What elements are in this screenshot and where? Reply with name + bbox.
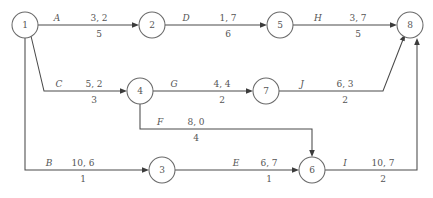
node-5[interactable]: 5 (267, 12, 293, 38)
edge-C-arrowhead (120, 88, 127, 94)
edge-E-lower: 1 (266, 174, 272, 184)
edge-B-lower: 1 (80, 174, 86, 184)
edge-B-line (25, 38, 146, 170)
edge-B-arrowhead (142, 167, 149, 173)
edge-E-arrowhead (292, 167, 299, 173)
network-diagram-canvas: A 3, 2 5 D 1, 7 6 H 3, 7 5 C 5, 2 3 G 4,… (0, 0, 433, 198)
node-5-label: 5 (277, 20, 283, 30)
edge-F-name: F (156, 117, 164, 127)
edge-C-name: C (56, 79, 63, 89)
edge-label-C: C 5, 2 3 (56, 79, 103, 105)
edge-G (153, 88, 253, 94)
edge-label-E: E 6, 7 1 (232, 158, 278, 184)
edge-E-upper: 6, 7 (260, 158, 277, 168)
node-7[interactable]: 7 (253, 78, 279, 104)
edge-D-lower: 6 (225, 29, 231, 39)
edge-I-name: I (342, 158, 347, 168)
node-8[interactable]: 8 (397, 12, 423, 38)
edge-J-upper: 6, 3 (336, 79, 353, 89)
edge-A (38, 22, 139, 28)
edge-E-name: E (232, 158, 240, 168)
node-1[interactable]: 1 (12, 12, 38, 38)
node-7-label: 7 (263, 86, 269, 96)
edge-C (31, 36, 127, 94)
edge-F-lower: 4 (193, 133, 199, 143)
edge-H-upper: 3, 7 (349, 13, 366, 23)
edge-A-arrowhead (132, 22, 139, 28)
edge-C-upper: 5, 2 (85, 79, 102, 89)
edge-H-arrowhead (390, 22, 397, 28)
edge-I-arrowhead (414, 38, 420, 45)
edge-J-name: J (298, 79, 305, 89)
edge-I-lower: 2 (380, 174, 386, 184)
edge-H-lower: 5 (355, 29, 361, 39)
edge-label-H: H 3, 7 5 (313, 13, 367, 39)
edge-label-G: G 4, 4 2 (170, 79, 230, 105)
node-8-label: 8 (407, 20, 413, 30)
edge-I-line (325, 41, 417, 170)
edge-I-upper: 10, 7 (372, 158, 395, 168)
edge-B-upper: 10, 6 (72, 158, 95, 168)
edge-D-name: D (181, 13, 189, 23)
edge-B-name: B (45, 158, 53, 168)
edge-D (165, 22, 267, 28)
edge-J-lower: 2 (342, 95, 348, 105)
edge-H (293, 22, 397, 28)
network-diagram-svg: A 3, 2 5 D 1, 7 6 H 3, 7 5 C 5, 2 3 G 4,… (0, 0, 433, 198)
node-4-label: 4 (137, 86, 143, 96)
edge-label-I: I 10, 7 2 (342, 158, 395, 184)
edge-G-upper: 4, 4 (213, 79, 230, 89)
node-6[interactable]: 6 (299, 157, 325, 183)
edge-G-name: G (170, 79, 177, 89)
edge-B (25, 38, 149, 173)
edge-label-D: D 1, 7 6 (181, 13, 236, 39)
node-2[interactable]: 2 (139, 12, 165, 38)
node-2-label: 2 (149, 20, 155, 30)
edge-C-line (31, 36, 124, 91)
edge-H-name: H (313, 13, 322, 23)
edge-C-lower: 3 (91, 95, 97, 105)
edge-D-upper: 1, 7 (219, 13, 236, 23)
edge-A-name: A (53, 13, 61, 23)
edge-F-arrowhead (309, 150, 315, 157)
edge-label-A: A 3, 2 5 (53, 13, 108, 39)
node-4[interactable]: 4 (127, 78, 153, 104)
node-6-label: 6 (309, 165, 315, 175)
edge-F (140, 104, 315, 157)
edge-F-line (140, 104, 312, 154)
node-1-label: 1 (22, 20, 28, 30)
edge-G-arrowhead (246, 88, 253, 94)
node-3[interactable]: 3 (149, 157, 175, 183)
edge-label-F: F 8, 0 4 (156, 117, 205, 143)
edge-F-upper: 8, 0 (187, 117, 204, 127)
node-3-label: 3 (159, 165, 165, 175)
edge-E (175, 167, 299, 173)
edge-label-B: B 10, 6 1 (45, 158, 95, 184)
edge-G-lower: 2 (219, 95, 225, 105)
edge-D-arrowhead (260, 22, 267, 28)
edge-A-upper: 3, 2 (90, 13, 107, 23)
edge-label-J: J 6, 3 2 (298, 79, 354, 105)
edge-I (325, 38, 420, 170)
edge-A-lower: 5 (96, 29, 102, 39)
